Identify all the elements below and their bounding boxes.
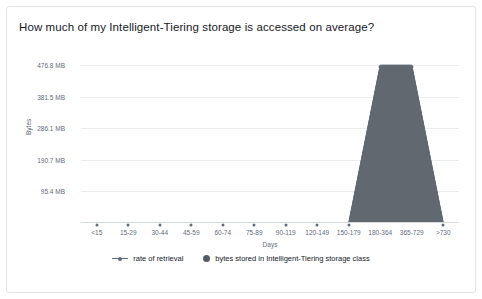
y-axis-tick-label: 476.8 MB: [5, 62, 65, 69]
x-axis-tick-label: 75-89: [246, 229, 263, 236]
area-series-shape: [97, 65, 444, 223]
x-axis-line: [81, 222, 459, 223]
data-point-marker[interactable]: [190, 223, 193, 226]
series-area-chart: [81, 51, 459, 223]
x-axis-tick-label: <15: [91, 229, 102, 236]
chart-legend: rate of retrieval bytes stored in Intell…: [7, 254, 475, 263]
x-axis-tick-label: 365-729: [400, 229, 424, 236]
data-point-marker[interactable]: [316, 223, 319, 226]
data-point-marker[interactable]: [221, 223, 224, 226]
x-axis-tick-label: 45-59: [183, 229, 200, 236]
plot-area: [81, 51, 459, 223]
data-point-marker[interactable]: [284, 223, 287, 226]
y-axis-tick-label: 190.7 MB: [5, 156, 65, 163]
data-point-marker[interactable]: [127, 223, 130, 226]
x-axis-tick-label: 150-179: [337, 229, 361, 236]
x-axis-title: Days: [263, 241, 278, 248]
y-axis-tick-label: 95.4 MB: [5, 188, 65, 195]
data-point-marker[interactable]: [442, 223, 445, 226]
chart-card: How much of my Intelligent-Tiering stora…: [6, 6, 476, 293]
x-axis-tick-label: 180-364: [368, 229, 392, 236]
legend-label: rate of retrieval: [133, 254, 183, 263]
circle-marker-icon: [203, 255, 210, 262]
data-point-marker[interactable]: [410, 65, 413, 68]
x-axis-tick-label: 30-44: [151, 229, 168, 236]
y-axis-tick-label: 286.1 MB: [5, 125, 65, 132]
x-axis-tick-label: 120-149: [305, 229, 329, 236]
x-axis-tick-label: >730: [436, 229, 451, 236]
data-point-marker[interactable]: [253, 223, 256, 226]
data-point-marker[interactable]: [347, 223, 350, 226]
x-axis-tick-label: 15-29: [120, 229, 137, 236]
y-axis-tick-label: 381.5 MB: [5, 93, 65, 100]
data-point-marker[interactable]: [379, 65, 382, 68]
legend-item-bytes-stored[interactable]: bytes stored in Intelligent-Tiering stor…: [203, 254, 369, 263]
chart-title: How much of my Intelligent-Tiering stora…: [19, 21, 374, 33]
data-point-marker[interactable]: [158, 223, 161, 226]
x-axis-tick-label: 60-74: [214, 229, 231, 236]
legend-label: bytes stored in Intelligent-Tiering stor…: [215, 254, 369, 263]
line-marker-icon: [112, 258, 128, 259]
x-axis-tick-label: 90-119: [276, 229, 296, 236]
data-point-marker[interactable]: [95, 223, 98, 226]
legend-item-rate-of-retrieval[interactable]: rate of retrieval: [112, 254, 183, 263]
